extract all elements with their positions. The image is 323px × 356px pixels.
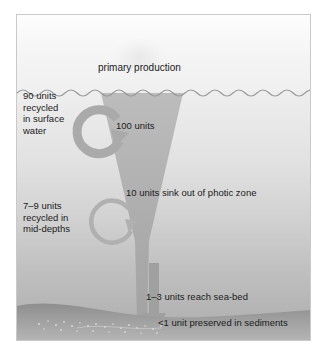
circular-recycle-arrow-icon-middepth bbox=[83, 193, 149, 259]
sky-region bbox=[17, 15, 310, 95]
illustration-panel: primary production 90 units recycled in … bbox=[16, 14, 311, 341]
label-seabed-reach: 1–3 units reach sea-bed bbox=[146, 291, 248, 303]
label-middepth-recycled: 7–9 units recycled in mid-depths bbox=[23, 200, 70, 235]
label-sediment-preserved: <1 unit preserved in sediments bbox=[158, 317, 288, 329]
circular-recycle-arrow-icon-surface bbox=[67, 99, 137, 169]
label-photic-sink: 10 units sink out of photic zone bbox=[126, 187, 256, 199]
label-primary-production: primary production bbox=[98, 62, 181, 74]
label-export-units: 100 units bbox=[116, 120, 155, 132]
ocean-carbon-flux-figure: primary production 90 units recycled in … bbox=[0, 0, 323, 356]
label-surface-recycled: 90 units recycled in surface water bbox=[23, 90, 64, 136]
